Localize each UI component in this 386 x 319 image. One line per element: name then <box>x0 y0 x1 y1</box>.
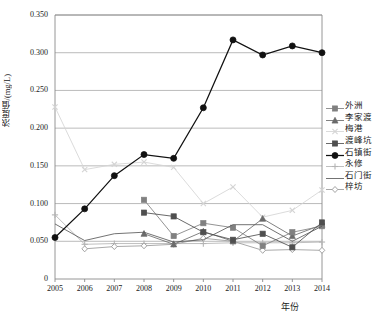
data-point-marker <box>201 221 206 226</box>
data-point-marker <box>289 43 295 49</box>
data-point-marker <box>319 247 325 253</box>
legend-symbol-icon <box>325 147 345 158</box>
legend-symbol-icon <box>325 112 345 123</box>
legend-label: 石镇街 <box>345 147 372 158</box>
legend-item-渡峰坑[interactable]: 渡峰坑 <box>325 135 385 147</box>
data-point-marker <box>319 220 324 225</box>
data-point-marker <box>141 197 146 202</box>
legend-label: 渡峰坑 <box>345 135 372 146</box>
data-point-marker <box>290 230 295 235</box>
legend-symbol-icon <box>325 135 345 146</box>
data-point-marker <box>112 244 118 250</box>
legend-item-石门街[interactable]: 石门街 <box>325 170 385 182</box>
data-point-marker <box>171 233 176 238</box>
chart-container: 浓度值/(mg/L) 00.0500.1000.1500.2000.2500.3… <box>0 0 386 319</box>
legend-item-李家渡[interactable]: 李家渡 <box>325 112 385 124</box>
data-point-marker <box>230 237 235 242</box>
series-line <box>55 40 322 238</box>
data-point-marker <box>171 214 176 219</box>
data-point-marker <box>201 235 207 241</box>
series-line <box>55 107 322 217</box>
data-point-marker <box>260 52 266 58</box>
series-6 <box>55 224 322 242</box>
legend-item-石镇街[interactable]: 石镇街 <box>325 146 385 158</box>
chart-legend: 外洲李家渡梅港渡峰坑石镇街永修石门街梓坊 <box>325 100 385 193</box>
legend-label: 外洲 <box>345 100 363 111</box>
legend-label: 石门街 <box>345 170 372 181</box>
data-point-marker <box>141 152 147 158</box>
data-point-marker <box>319 239 325 245</box>
data-point-marker <box>52 235 58 241</box>
series-line <box>55 224 322 242</box>
series-4 <box>52 37 325 241</box>
data-point-marker <box>111 173 117 179</box>
data-point-marker <box>230 37 236 43</box>
data-point-marker <box>82 246 88 252</box>
data-point-marker <box>319 50 325 56</box>
legend-symbol-icon <box>325 181 345 192</box>
data-point-marker <box>260 243 265 248</box>
data-point-marker <box>230 184 235 189</box>
data-point-marker <box>82 206 88 212</box>
legend-symbol-icon <box>325 170 345 181</box>
legend-label: 李家渡 <box>345 112 372 123</box>
legend-item-梓坊[interactable]: 梓坊 <box>325 181 385 193</box>
legend-label: 梓坊 <box>345 181 363 192</box>
legend-symbol-icon <box>325 158 345 169</box>
data-point-marker <box>332 152 338 158</box>
x-axis-label: 年份 <box>281 300 299 313</box>
data-point-marker <box>332 141 337 146</box>
data-point-marker <box>332 106 337 111</box>
legend-label: 永修 <box>345 158 363 169</box>
data-point-marker <box>200 105 206 111</box>
legend-symbol-icon <box>325 123 345 134</box>
legend-item-永修[interactable]: 永修 <box>325 158 385 170</box>
legend-label: 梅港 <box>345 123 363 134</box>
data-point-marker <box>332 187 338 193</box>
data-point-marker <box>141 231 147 237</box>
legend-symbol-icon <box>325 100 345 111</box>
data-point-marker <box>171 155 177 161</box>
data-point-marker <box>141 210 146 215</box>
legend-item-梅港[interactable]: 梅港 <box>325 123 385 135</box>
data-point-marker <box>201 230 206 235</box>
data-point-marker <box>260 231 265 236</box>
legend-item-外洲[interactable]: 外洲 <box>325 100 385 112</box>
series-2 <box>52 104 324 219</box>
data-point-marker <box>290 245 295 250</box>
